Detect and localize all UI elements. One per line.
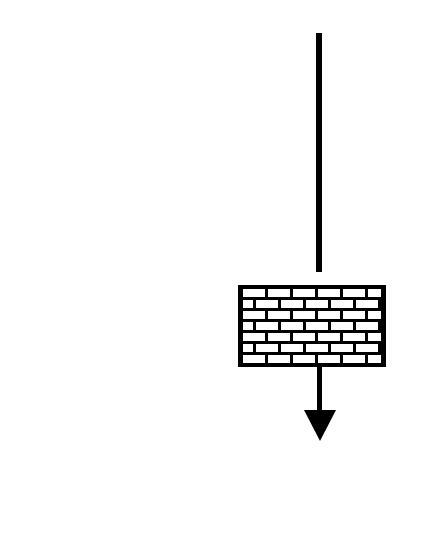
brick-face (356, 322, 378, 330)
brick-face (318, 355, 340, 363)
brick-face (243, 311, 265, 319)
brick-faces (243, 289, 381, 363)
page-background (0, 0, 422, 555)
brick-face (356, 300, 378, 308)
brick-face (343, 289, 365, 297)
brick-face (256, 300, 278, 308)
brick-face (281, 344, 303, 352)
brick-face (268, 333, 290, 341)
brick-face (331, 300, 353, 308)
diagram-svg (0, 0, 422, 555)
figure-canvas (0, 0, 422, 555)
brick-face (368, 355, 381, 363)
brick-face (281, 300, 303, 308)
brick-face (331, 344, 353, 352)
brick-wall (238, 285, 386, 367)
brick-face (368, 289, 381, 297)
brick-face (268, 311, 290, 319)
brick-face (343, 311, 365, 319)
brick-face (293, 289, 315, 297)
brick-face (331, 322, 353, 330)
brick-face (306, 344, 328, 352)
brick-face (256, 344, 278, 352)
brick-face (268, 289, 290, 297)
brick-face (281, 322, 303, 330)
brick-face (306, 322, 328, 330)
brick-face (243, 355, 265, 363)
brick-face (306, 300, 328, 308)
outgoing-arrow-shaft (317, 367, 322, 414)
brick-face (318, 289, 340, 297)
brick-face (293, 333, 315, 341)
brick-face (268, 355, 290, 363)
brick-face (318, 333, 340, 341)
brick-face (243, 300, 253, 308)
brick-face (368, 311, 381, 319)
brick-face (368, 333, 381, 341)
brick-face (243, 333, 265, 341)
incoming-arrow-shaft (316, 33, 322, 272)
brick-face (293, 355, 315, 363)
brick-face (243, 289, 265, 297)
brick-face (343, 355, 365, 363)
brick-face (356, 344, 378, 352)
brick-face (243, 322, 253, 330)
brick-face (318, 311, 340, 319)
brick-face (243, 344, 253, 352)
brick-face (256, 322, 278, 330)
brick-face (343, 333, 365, 341)
brick-face (293, 311, 315, 319)
